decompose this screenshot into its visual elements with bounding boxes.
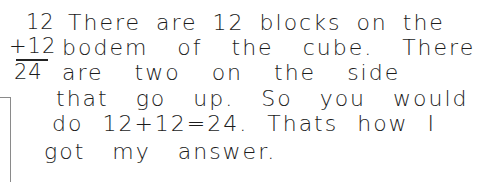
sum-result: 24: [14, 62, 43, 83]
explanation-line-6: got my answer.: [44, 141, 276, 163]
margin-bracket-top: [0, 97, 10, 98]
explanation-line-4: that go up. So you would: [56, 88, 469, 110]
explanation-line-1: There are 12 blocks on the: [68, 12, 445, 34]
addend-two: +12: [9, 36, 56, 57]
explanation-line-3: are two on the side: [62, 62, 400, 84]
explanation-line-2: bodem of the cube. There: [62, 37, 475, 59]
explanation-line-5: do 12+12=24. Thats how I: [52, 113, 436, 135]
margin-bracket-line: [10, 97, 11, 182]
handwritten-response-page: 12 +12 24 There are 12 blocks on the bod…: [0, 0, 483, 182]
addend-one: 12: [26, 12, 55, 33]
